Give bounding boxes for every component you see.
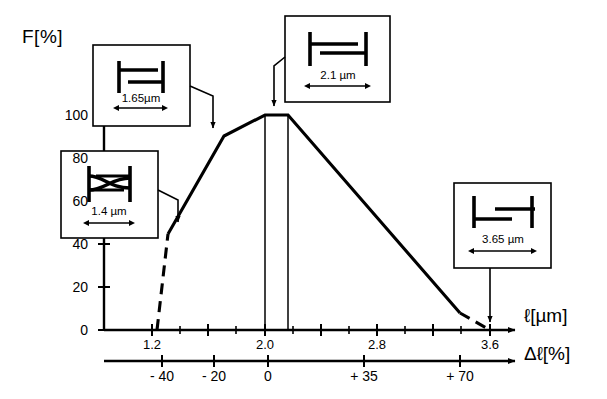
delta-tick-m40: - 40 — [134, 368, 190, 384]
inset-sarcomere-2-10 — [285, 16, 390, 102]
y-tick-100: 100 — [50, 107, 88, 123]
y-tick-40: 40 — [56, 236, 88, 252]
x-axis-length — [104, 324, 515, 336]
x-axis-delta — [104, 355, 515, 367]
delta-tick-m20: - 20 — [186, 368, 242, 384]
y-tick-20: 20 — [56, 279, 88, 295]
x-tick-2-0: 2.0 — [242, 337, 288, 352]
inset-caption-2-10: 2.1 µm — [293, 69, 383, 81]
force-length-curve — [157, 115, 490, 330]
x-axis-label-length: ℓ[µm] — [524, 305, 567, 327]
x-tick-2-8: 2.8 — [354, 337, 400, 352]
delta-tick-p35: + 35 — [336, 368, 392, 384]
force-length-chart — [0, 0, 607, 399]
y-tick-0: 0 — [56, 322, 88, 338]
inset-caption-1-40: 1.4 µm — [64, 205, 154, 217]
inset-sarcomere-3-65 — [454, 183, 551, 268]
inset-caption-3-65: 3.65 µm — [458, 233, 548, 245]
x-tick-1-2: 1.2 — [129, 337, 175, 352]
x-tick-3-6: 3.6 — [467, 337, 513, 352]
y-axis-label: F[%] — [22, 26, 63, 48]
delta-tick-0: 0 — [240, 368, 296, 384]
x-axis-label-delta: Δℓ[%] — [524, 343, 570, 365]
inset-sarcomere-1-65 — [93, 45, 190, 126]
inset-caption-1-65: 1.65µm — [96, 92, 186, 104]
delta-tick-p70: + 70 — [432, 368, 488, 384]
y-tick-80: 80 — [56, 150, 88, 166]
plateau-drop-lines — [265, 116, 288, 330]
